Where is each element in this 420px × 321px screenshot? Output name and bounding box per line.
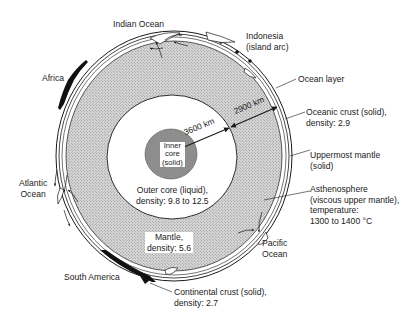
africa-label: Africa — [42, 73, 64, 84]
atlantic-ocean-label: Atlantic Ocean — [19, 178, 47, 199]
uppermost-mantle-callout: Uppermost mantle (solid) — [310, 150, 380, 171]
indian-ocean-label: Indian Ocean — [113, 19, 164, 30]
oceanic-crust-callout: Oceanic crust (solid), density: 2.9 — [306, 107, 387, 128]
asthenosphere-callout: Asthenosphere (viscous upper mantle), te… — [310, 184, 399, 226]
mantle-label: Mantle, density: 5.6 — [145, 232, 193, 253]
ocean-layer-callout: Ocean layer — [298, 74, 344, 85]
pacific-ocean-label: Pacific Ocean — [262, 238, 287, 259]
inner-core-label: Inner core (solid) — [160, 142, 185, 167]
continental-crust-callout: Continental crust (solid), density: 2.7 — [174, 287, 267, 308]
indonesia-label: Indonesia (island arc) — [246, 31, 289, 52]
outer-core-label: Outer core (liquid), density: 9.8 to 12.… — [136, 185, 209, 206]
south-america-label: South America — [64, 272, 120, 283]
